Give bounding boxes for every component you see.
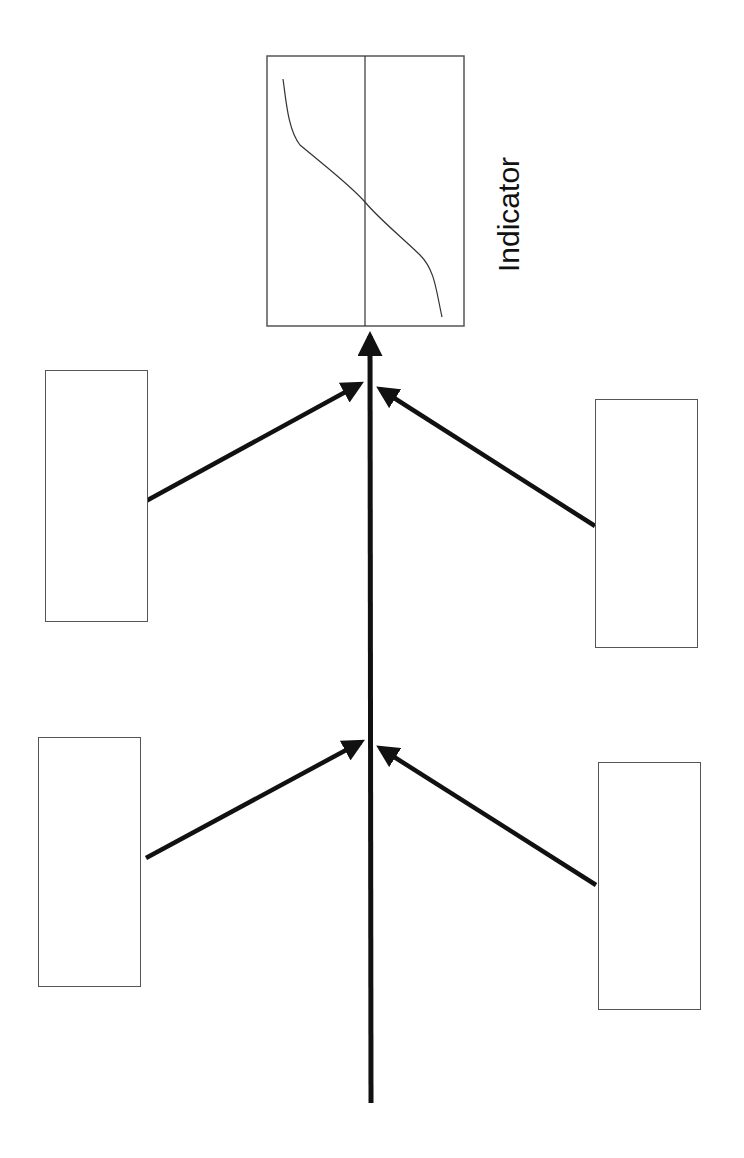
cause-box-top-left	[45, 370, 148, 622]
branch-arrow-bottom-right	[380, 748, 596, 885]
spine-arrow	[370, 336, 371, 1103]
branch-arrow-bottom-left	[146, 742, 361, 858]
cause-box-top-right	[595, 399, 698, 648]
indicator-label: Indicator	[492, 157, 526, 272]
cause-box-bottom-left	[38, 737, 141, 987]
fishbone-diagram: Indicator	[0, 0, 744, 1158]
branch-arrow-top-left	[146, 384, 360, 501]
branch-arrow-top-right	[380, 389, 595, 526]
cause-box-bottom-right	[598, 762, 701, 1010]
